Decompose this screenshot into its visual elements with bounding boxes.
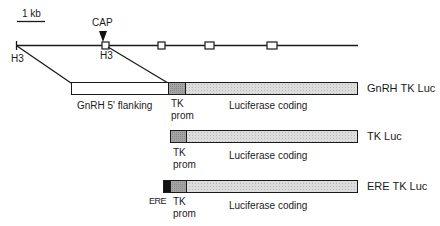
construct-ere-tk-luc xyxy=(164,181,358,193)
segment-label: prom xyxy=(173,208,196,219)
tk-prom-segment xyxy=(171,181,187,193)
exon-4 xyxy=(267,42,277,49)
exon-2 xyxy=(158,42,165,49)
cap-label: CAP xyxy=(92,17,113,28)
ere-segment xyxy=(164,181,171,193)
luciferase-segment xyxy=(187,131,358,143)
tk-prom-segment xyxy=(169,83,186,95)
gnrh-flanking-segment xyxy=(72,83,169,95)
segment-label: Luciferase coding xyxy=(229,150,307,161)
construct-gnrh-tk-luc xyxy=(72,83,358,95)
cap-arrow-icon xyxy=(99,31,107,42)
segment-label: Luciferase coding xyxy=(229,100,307,111)
segment-label: TK xyxy=(173,196,186,207)
segment-label: TK xyxy=(173,147,186,158)
construct-name: GnRH TK Luc xyxy=(367,83,435,94)
h3-cap-label: H3 xyxy=(100,50,113,61)
h3-left-label: H3 xyxy=(11,53,24,64)
segment-label: TK xyxy=(171,98,184,109)
construct-diagram xyxy=(0,0,440,226)
segment-label: prom xyxy=(173,159,196,170)
construct-name: TK Luc xyxy=(367,131,402,142)
segment-label: GnRH 5' flanking xyxy=(77,100,152,111)
tk-prom-segment xyxy=(171,131,187,143)
construct-name: ERE TK Luc xyxy=(367,181,427,192)
construct-tk-luc xyxy=(171,131,358,143)
exon-1 xyxy=(102,42,109,49)
scale-bar-label: 1 kb xyxy=(22,8,41,19)
segment-label: ERE xyxy=(149,196,166,207)
luciferase-segment xyxy=(186,83,358,95)
exon-3 xyxy=(205,42,214,49)
luciferase-segment xyxy=(187,181,358,193)
segment-label: prom xyxy=(171,110,194,121)
gene-map xyxy=(16,31,358,83)
segment-label: Luciferase coding xyxy=(229,200,307,211)
